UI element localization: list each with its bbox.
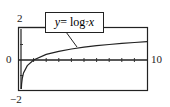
annotation-leader-line (66, 32, 77, 47)
eq-log: = log (60, 15, 85, 30)
log7-curve (21, 42, 147, 89)
eq-x: x (89, 15, 94, 30)
origin-label: 0 (6, 54, 12, 65)
plot-frame (19, 28, 148, 91)
x-max-label: 10 (151, 54, 162, 65)
y-min-label: −2 (10, 94, 22, 105)
equation-annotation: y = log7 x (45, 12, 104, 33)
y-max-label: 2 (17, 13, 23, 24)
